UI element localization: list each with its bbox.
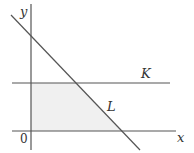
line-l-label: L [106,99,116,114]
x-axis-label: x [177,130,185,145]
origin-label: 0 [20,132,28,146]
line-k-label: K [140,66,152,81]
diagram-canvas: y x 0 K L [0,0,194,153]
y-axis-label: y [19,4,28,19]
